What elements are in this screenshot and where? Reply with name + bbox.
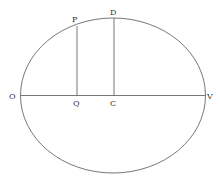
label-d: D xyxy=(110,8,116,17)
ellipse-diagram: P D O Q C V xyxy=(0,0,220,182)
label-c: C xyxy=(110,99,116,108)
label-o: O xyxy=(9,92,16,101)
label-v: V xyxy=(206,92,213,101)
label-p: P xyxy=(72,15,78,24)
label-q: Q xyxy=(73,99,80,108)
